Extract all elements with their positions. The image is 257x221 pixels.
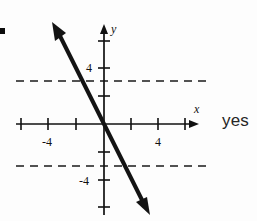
y-tick-label-neg4: -4 bbox=[79, 174, 89, 188]
graph-figure: y x -4 4 4 -4 yes bbox=[0, 0, 257, 221]
y-tick-label-pos4: 4 bbox=[86, 61, 92, 75]
coordinate-plane-graph: y x -4 4 4 -4 bbox=[0, 0, 257, 221]
x-axis-arrowhead bbox=[189, 120, 199, 128]
y-axis-arrowhead bbox=[100, 24, 108, 34]
x-tick-label-pos4: 4 bbox=[155, 135, 161, 149]
x-axis-label: x bbox=[193, 102, 200, 116]
x-tick-label-neg4: -4 bbox=[42, 135, 52, 149]
y-axis-label: y bbox=[110, 22, 117, 36]
line-arrowhead-lower-right bbox=[136, 197, 150, 215]
answer-text: yes bbox=[222, 111, 249, 131]
